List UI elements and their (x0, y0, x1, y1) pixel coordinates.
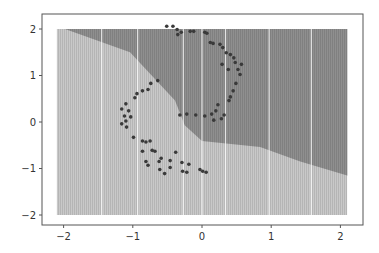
data-point (120, 107, 124, 111)
data-point (236, 68, 240, 72)
data-point (178, 113, 182, 117)
data-point (210, 112, 214, 116)
y-tick-label: 1 (30, 70, 36, 81)
data-point (156, 79, 160, 83)
data-point (127, 109, 131, 113)
data-point (201, 169, 205, 173)
data-point (185, 112, 189, 116)
data-point (222, 113, 226, 117)
data-point (220, 63, 224, 67)
data-point (192, 30, 196, 34)
data-point (157, 160, 161, 164)
data-point (144, 160, 148, 164)
data-point (176, 33, 180, 37)
data-point (141, 149, 145, 153)
data-point (194, 113, 198, 117)
data-point (165, 24, 169, 28)
data-point (185, 170, 189, 174)
data-point (229, 95, 233, 99)
data-point (168, 159, 172, 163)
data-point (229, 53, 233, 57)
data-point (146, 88, 150, 92)
x-tick-label: 1 (268, 231, 274, 242)
data-point (149, 82, 153, 86)
data-point (135, 92, 139, 96)
y-tick-label: 0 (30, 117, 36, 128)
data-point (148, 139, 152, 143)
data-point (234, 82, 238, 86)
data-point (168, 166, 172, 170)
data-point (174, 150, 178, 154)
data-point (125, 125, 129, 129)
data-point (123, 114, 127, 118)
y-tick-label: −2 (21, 210, 36, 221)
data-point (212, 118, 216, 122)
data-point (181, 169, 185, 173)
data-point (175, 28, 179, 32)
data-point (233, 61, 237, 65)
data-point (226, 68, 230, 72)
data-point (180, 161, 184, 165)
data-point (144, 140, 148, 144)
data-point (203, 114, 207, 118)
data-point (232, 56, 236, 60)
data-point (141, 89, 145, 93)
y-tick-label: 2 (30, 24, 36, 35)
data-point (141, 139, 145, 143)
data-point (227, 99, 231, 103)
data-point (133, 96, 137, 100)
data-point (211, 42, 215, 46)
data-point (188, 30, 192, 34)
x-axis: −2−1012 (56, 225, 343, 242)
data-point (238, 73, 242, 77)
data-point (132, 136, 136, 140)
data-point (159, 156, 163, 160)
data-point (171, 24, 175, 28)
decision-boundary-plot: −2−1012 −2−1012 (0, 0, 379, 253)
mesh-background (57, 24, 353, 215)
data-point (218, 43, 222, 47)
data-point (216, 103, 220, 107)
data-point (220, 117, 224, 121)
data-point (153, 149, 157, 153)
data-point (221, 46, 225, 50)
y-tick-label: −1 (21, 163, 36, 174)
data-point (231, 89, 235, 93)
data-point (240, 63, 244, 67)
data-point (187, 163, 191, 167)
data-point (158, 168, 162, 172)
x-tick-label: 2 (337, 231, 343, 242)
x-tick-label: 0 (199, 231, 205, 242)
x-tick-label: −1 (125, 231, 140, 242)
x-tick-label: −2 (56, 231, 71, 242)
y-axis: −2−1012 (21, 24, 42, 221)
data-point (163, 172, 167, 176)
data-point (124, 102, 128, 106)
data-point (205, 31, 209, 35)
data-point (214, 109, 218, 113)
data-point (146, 163, 150, 167)
data-point (124, 119, 128, 123)
data-point (224, 51, 228, 55)
data-point (129, 115, 133, 119)
data-point (120, 122, 124, 126)
data-point (204, 170, 208, 174)
data-point (179, 30, 183, 34)
